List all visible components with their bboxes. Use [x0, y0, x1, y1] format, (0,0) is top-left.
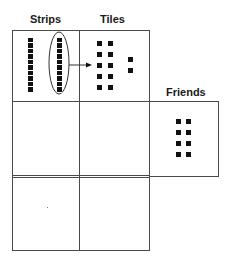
stray-dot: [47, 207, 48, 208]
strip-2: [57, 38, 62, 93]
strip-oval-arrow: [0, 0, 228, 264]
strip-1: [28, 38, 33, 93]
